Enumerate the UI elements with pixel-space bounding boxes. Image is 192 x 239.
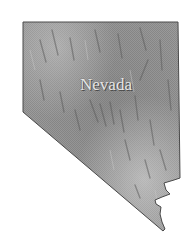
state-shape bbox=[0, 0, 192, 239]
nevada-map: Nevada bbox=[0, 0, 192, 239]
state-label: Nevada bbox=[70, 75, 142, 95]
